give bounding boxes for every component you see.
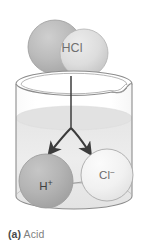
hydrogen-ion-symbol: H [39,180,47,192]
figure-caption: (a) Acid [8,228,44,241]
hydrogen-ion-charge: + [48,178,53,188]
liquid-surface [16,106,132,130]
chloride-ion-charge: − [110,167,115,177]
molecule-hcl-label: HCl [62,41,83,55]
figure-caption-text: Acid [21,228,44,240]
beaker-rim-outer [16,71,132,95]
figure-acid-dissociation: HCl [0,0,148,250]
figure-caption-tag: (a) [8,228,21,240]
chloride-ion-symbol: Cl [99,169,110,181]
molecule-hcl: HCl [28,20,108,77]
acid-dissociation-illustration: HCl [0,0,148,225]
